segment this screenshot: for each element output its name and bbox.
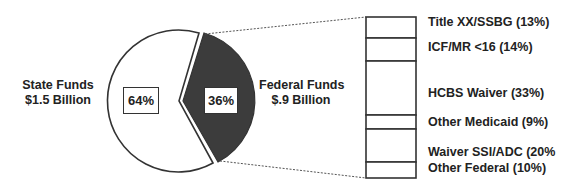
- federal-percent-box: 36%: [204, 87, 238, 114]
- federal-funds-name: Federal Funds: [259, 78, 343, 93]
- state-funds-name: State Funds: [22, 78, 94, 93]
- connector-line-top: [205, 17, 366, 34]
- federal-breakdown-bar: [366, 17, 416, 178]
- state-percent-box: 64%: [123, 87, 159, 114]
- connector-line-bottom: [220, 161, 366, 178]
- bar-label-hcbs-waiver: HCBS Waiver (33%): [428, 86, 544, 101]
- federal-funds-label: Federal Funds $.9 Billion: [259, 78, 343, 108]
- bar-label-other-medicaid: Other Medicaid (9%): [428, 115, 548, 130]
- bar-label-waiver-ssi-adc: Waiver SSI/ADC (20%: [428, 145, 555, 160]
- state-funds-label: State Funds $1.5 Billion: [22, 78, 94, 108]
- bar-segment-icf-mr: [366, 38, 416, 61]
- bar-segment-waiver-ssi-adc: [366, 129, 416, 162]
- federal-funds-amount: $.9 Billion: [259, 93, 343, 108]
- bar-segment-other-medicaid: [366, 115, 416, 129]
- state-funds-amount: $1.5 Billion: [22, 93, 94, 108]
- bar-segment-other-federal: [366, 162, 416, 178]
- bar-label-icf-mr: ICF/MR <16 (14%): [428, 40, 533, 55]
- bar-label-title-xx: Title XX/SSBG (13%): [428, 15, 549, 30]
- bar-segment-title-xx: [366, 17, 416, 38]
- bar-label-other-federal: Other Federal (10%): [428, 161, 546, 176]
- bar-segment-hcbs-waiver: [366, 61, 416, 115]
